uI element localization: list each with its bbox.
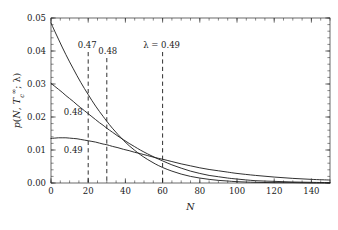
y-tick-label: 0.01 [27,145,46,155]
y-tick-label: 0.05 [27,13,46,23]
line-chart: 0.000.010.020.030.040.05 020406080100120… [0,0,338,230]
y-tick-label: 0.04 [27,46,46,56]
x-tick-label: 140 [303,186,319,196]
x-tick-label: 120 [266,186,282,196]
x-tick-label: 40 [120,186,131,196]
x-tick-label: 20 [83,186,94,196]
x-tick-label: 80 [194,186,205,196]
curve-label: 0.48 [64,107,83,117]
figure-container: 0.000.010.020.030.040.05 020406080100120… [0,0,338,230]
y-tick-label: 0.00 [27,178,46,188]
x-tick-label: 60 [157,186,168,196]
x-tick-label: 100 [229,186,245,196]
curve-label: 0.49 [64,145,83,155]
threshold-label: λ = 0.49 [143,40,180,50]
x-axis-title: N [185,201,195,212]
threshold-label: 0.47 [78,40,97,50]
y-tick-label: 0.02 [27,112,46,122]
threshold-label: 0.48 [98,46,117,56]
y-tick-label: 0.03 [27,79,46,89]
x-tick-label: 0 [48,186,53,196]
